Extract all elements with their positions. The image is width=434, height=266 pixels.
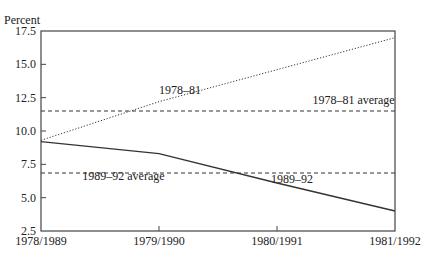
series-lines (41, 38, 395, 211)
y-tick-label: 12.5 (15, 91, 36, 105)
plot-frame (41, 31, 395, 231)
annotation-label: 1978–81 (159, 83, 201, 97)
annotation-label: 1989–92 (271, 172, 313, 186)
y-tick-label: 17.5 (15, 24, 36, 38)
x-tick-label: 1980/1991 (251, 234, 302, 248)
y-tick-label: 15.0 (15, 57, 36, 71)
x-axis-ticks: 1978/19891979/19901980/19911981/1992 (15, 226, 420, 248)
annotation-label: 1978–81 average (312, 93, 394, 107)
annotations: 1978–811978–81 average1989–92 average198… (82, 83, 394, 186)
series-1978-81 (41, 38, 395, 141)
line-chart: Percent 17.515.012.510.07.55.02.5 1978/1… (0, 0, 434, 266)
annotation-label: 1989–92 average (82, 169, 164, 183)
x-tick-label: 1979/1990 (133, 234, 184, 248)
y-tick-label: 5.0 (21, 191, 36, 205)
x-tick-label: 1981/1992 (369, 234, 420, 248)
y-tick-label: 10.0 (15, 124, 36, 138)
x-tick-label: 1978/1989 (15, 234, 66, 248)
y-tick-label: 7.5 (21, 157, 36, 171)
